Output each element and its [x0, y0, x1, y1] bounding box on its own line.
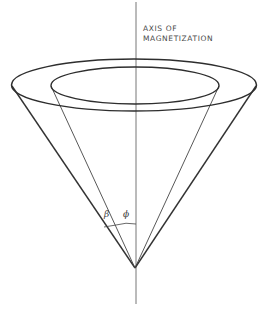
- phi-angle-arc: [116, 223, 136, 225]
- axis-label: AXIS OF MAGNETIZATION: [143, 24, 213, 44]
- inner-cone-right-edge: [135, 86, 219, 268]
- outer-cone-right-edge: [135, 86, 256, 268]
- cone-svg: [0, 0, 266, 310]
- inner-cone-rim: [51, 67, 219, 104]
- outer-cone-left-edge: [12, 86, 135, 268]
- axis-label-line2: MAGNETIZATION: [143, 34, 213, 44]
- beta-label: β: [104, 209, 109, 219]
- cone-diagram: AXIS OF MAGNETIZATION β ϕ: [0, 0, 266, 310]
- axis-label-line1: AXIS OF: [143, 24, 213, 34]
- inner-cone-left-edge: [51, 86, 135, 268]
- phi-label: ϕ: [123, 209, 129, 219]
